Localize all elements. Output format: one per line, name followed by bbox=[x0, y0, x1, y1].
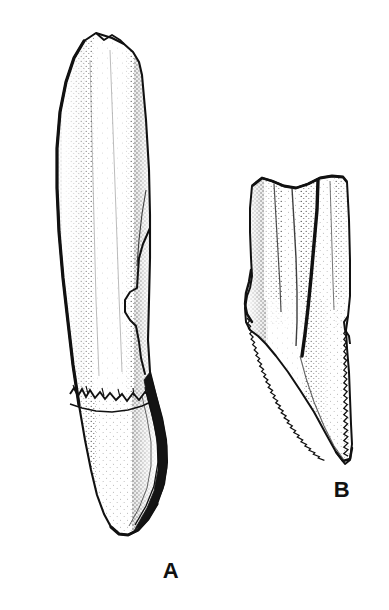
specimen-b-label: B bbox=[334, 477, 350, 502]
specimen-a-label: A bbox=[163, 558, 179, 583]
figure-plate: A bbox=[0, 0, 389, 610]
illustration-canvas: A bbox=[0, 0, 389, 610]
